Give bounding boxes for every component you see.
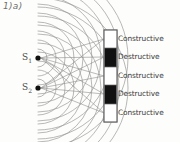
- band-constructive-2: [105, 67, 117, 85]
- band-constructive-1: [105, 31, 117, 49]
- interference-diagram: 1)a) S1 S2 Constructive Destructive Cons…: [0, 0, 180, 142]
- source-1-label: S1: [22, 52, 32, 64]
- band-label-destructive-2: Destructive: [118, 89, 160, 98]
- band-label-destructive-1: Destructive: [118, 52, 160, 61]
- band-destructive-2: [105, 85, 117, 104]
- band-constructive-3: [105, 104, 117, 122]
- band-label-constructive-3: Constructive: [118, 108, 164, 117]
- source-2-dot: [35, 85, 40, 90]
- band-label-constructive-1: Constructive: [118, 34, 164, 43]
- band-label-constructive-2: Constructive: [118, 71, 164, 80]
- figure-label: 1)a): [3, 1, 22, 11]
- source-2-label: S2: [22, 82, 32, 94]
- source-2-subscript: 2: [28, 87, 32, 94]
- screen: [104, 30, 117, 122]
- source-1-subscript: 1: [28, 57, 32, 64]
- rays-source-1: [41, 39, 104, 113]
- band-destructive-1: [105, 48, 117, 67]
- source-1-dot: [35, 55, 40, 60]
